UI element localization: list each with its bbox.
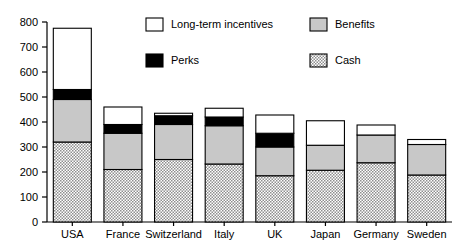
legend-swatch [146, 54, 163, 67]
x-tick-label: UK [267, 228, 283, 240]
legend-swatch [310, 18, 327, 31]
y-tick-label: 400 [20, 116, 38, 128]
bar-segment [104, 107, 142, 125]
bar-segment [53, 142, 91, 222]
bar-segment [104, 125, 142, 134]
bar-segment [155, 113, 193, 116]
x-tick-label: USA [61, 228, 84, 240]
bar-segment [256, 147, 294, 176]
bar-segment [205, 117, 243, 126]
bar-segment [205, 164, 243, 222]
bar-segment [205, 126, 243, 164]
bar-segment [408, 140, 446, 145]
bar-segment [306, 145, 344, 170]
x-tick-label: Switzerland [145, 228, 202, 240]
bar-segment [408, 145, 446, 176]
bar-segment [155, 125, 193, 160]
y-tick-label: 600 [20, 66, 38, 78]
x-axis: USAFranceSwitzerlandItalyUKJapanGermanyS… [47, 222, 452, 240]
bar-segment [357, 135, 395, 163]
legend-label: Perks [171, 54, 200, 66]
bar-segment [306, 170, 344, 222]
x-tick-label: Germany [353, 228, 399, 240]
bar-segment [306, 121, 344, 146]
chart-legend: Long-term incentivesBenefitsPerksCash [146, 18, 375, 67]
bars-group [53, 28, 445, 222]
bar-segment [408, 175, 446, 222]
legend-swatch [146, 18, 163, 31]
chart-canvas: 0100200300400500600700800 USAFranceSwitz… [0, 0, 460, 251]
x-tick-label: Japan [310, 228, 340, 240]
x-tick-label: Italy [214, 228, 235, 240]
y-tick-label: 200 [20, 166, 38, 178]
legend-label: Cash [335, 54, 361, 66]
y-axis: 0100200300400500600700800 [20, 16, 47, 228]
bar-segment [155, 116, 193, 125]
bar-segment [256, 133, 294, 147]
bar-segment [256, 115, 294, 133]
y-tick-label: 500 [20, 91, 38, 103]
y-tick-label: 700 [20, 41, 38, 53]
y-tick-label: 300 [20, 141, 38, 153]
y-tick-label: 800 [20, 16, 38, 28]
bar-segment [53, 90, 91, 100]
bar-segment [53, 28, 91, 89]
bar-segment [53, 100, 91, 143]
x-tick-label: Sweden [407, 228, 447, 240]
legend-label: Long-term incentives [171, 18, 274, 30]
bar-segment [155, 160, 193, 223]
bar-segment [256, 176, 294, 222]
bar-segment [357, 163, 395, 222]
stacked-bar-chart: 0100200300400500600700800 USAFranceSwitz… [0, 0, 460, 251]
legend-label: Benefits [335, 18, 375, 30]
bar-segment [104, 133, 142, 169]
bar-segment [205, 108, 243, 117]
bar-segment [104, 170, 142, 223]
y-tick-label: 100 [20, 191, 38, 203]
bar-segment [357, 125, 395, 135]
x-tick-label: France [106, 228, 140, 240]
legend-swatch [310, 54, 327, 67]
y-tick-label: 0 [32, 216, 38, 228]
